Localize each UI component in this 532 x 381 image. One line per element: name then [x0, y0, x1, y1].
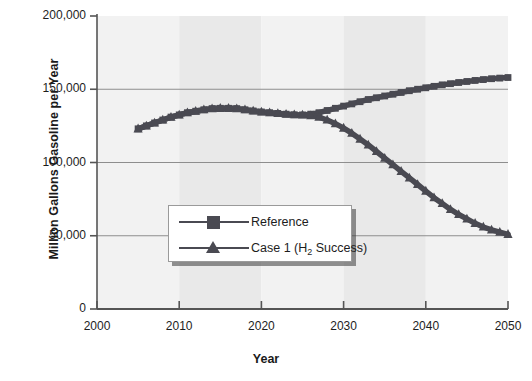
y-tick-label: 200,000 [2, 9, 86, 21]
y-tick-label: 150,000 [2, 82, 86, 94]
chart-legend: Reference Case 1 (H2 Success) [168, 205, 352, 262]
y-tick-label: 100,000 [2, 156, 86, 168]
x-tick-label: 2050 [473, 320, 532, 332]
legend-item-reference: Reference [169, 208, 351, 236]
x-tick-label: 2040 [391, 320, 461, 332]
x-tick-label: 2020 [226, 320, 296, 332]
legend-item-case1: Case 1 (H2 Success) [169, 234, 351, 262]
x-axis-title: Year [0, 352, 532, 366]
x-tick-label: 2000 [62, 320, 132, 332]
gasoline-consumption-chart: Million Gallons Gasoline per Year Year 0… [0, 0, 532, 381]
legend-label-reference: Reference [251, 215, 309, 229]
y-tick-label: 0 [2, 302, 86, 314]
legend-label-case1: Case 1 (H2 Success) [251, 241, 367, 255]
x-tick-label: 2030 [309, 320, 379, 332]
y-tick-label: 50,000 [2, 229, 86, 241]
legend-marker-triangle [177, 237, 251, 259]
x-tick-label: 2010 [144, 320, 214, 332]
legend-marker-square [177, 211, 251, 233]
